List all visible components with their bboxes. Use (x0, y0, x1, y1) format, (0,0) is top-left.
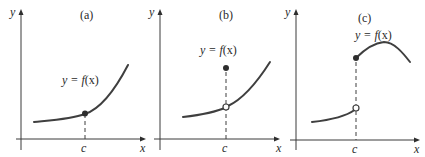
point-at-c-open-c (353, 105, 359, 111)
continuity-figure: y x (a) y = f(x) c y x (b) y = f(x) c y … (0, 0, 425, 157)
y-axis-arrow-icon (158, 9, 163, 15)
function-curve-left-b (183, 108, 226, 118)
x-axis-label-c: x (413, 142, 420, 156)
function-label-c: y = f(x) (354, 28, 392, 42)
function-label-b: y = f(x) (199, 43, 237, 57)
c-label-c: c (352, 142, 358, 156)
point-at-c-filled-a (82, 111, 88, 117)
function-curve-left-c (312, 110, 355, 122)
panel-b: y x (b) y = f(x) c (148, 5, 282, 155)
c-label-b: c (222, 141, 228, 155)
point-at-c-filled-b (223, 65, 229, 71)
panel-title-b: (b) (219, 8, 233, 22)
x-axis-label-b: x (275, 141, 282, 155)
y-axis-arrow-icon (294, 9, 299, 15)
point-at-c-filled-c (353, 55, 359, 61)
function-curve-right-b (228, 62, 270, 106)
y-axis-label-c: y (284, 5, 291, 19)
c-label-a: c (81, 141, 87, 155)
point-at-c-open-b (223, 104, 229, 110)
y-axis-label-b: y (148, 5, 155, 19)
function-curve-right-c (356, 42, 410, 62)
panel-c: y x (c) y = f(x) c (284, 5, 420, 156)
panel-title-c: (c) (358, 11, 371, 25)
y-axis-arrow-icon (19, 9, 24, 15)
x-axis-label-a: x (139, 141, 146, 155)
panel-a: y x (a) y = f(x) c (9, 5, 146, 155)
y-axis-label-a: y (9, 5, 16, 19)
panel-title-a: (a) (80, 8, 93, 22)
function-label-a: y = f(x) (61, 73, 99, 87)
